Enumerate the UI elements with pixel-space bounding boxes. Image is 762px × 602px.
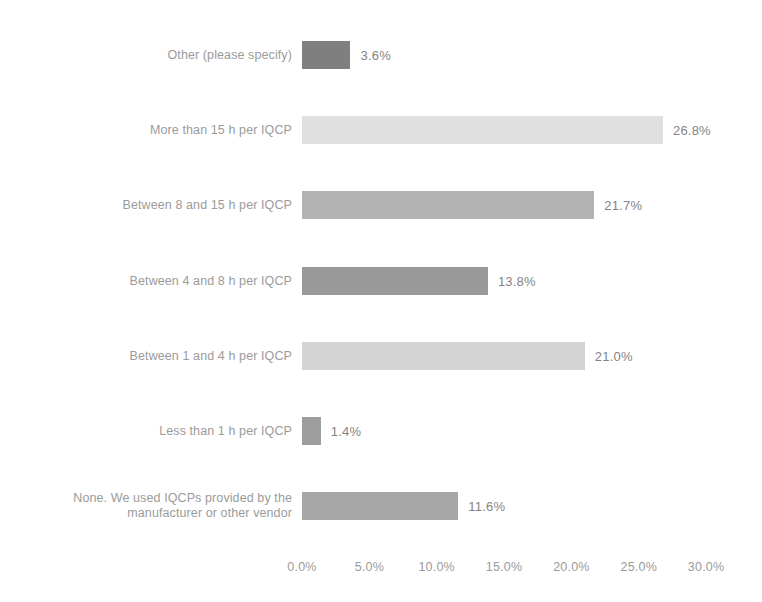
category-label: Less than 1 h per IQCP <box>12 424 292 439</box>
bar <box>302 342 585 370</box>
bar <box>302 267 488 295</box>
bar-value-label: 3.6% <box>360 48 390 63</box>
x-tick-label: 25.0% <box>621 560 657 574</box>
category-label: None. We used IQCPs provided by the manu… <box>12 491 292 521</box>
bar-row: Other (please specify)3.6% <box>0 41 762 69</box>
bar-row: None. We used IQCPs provided by the manu… <box>0 492 762 520</box>
category-label: More than 15 h per IQCP <box>12 123 292 138</box>
x-tick-label: 10.0% <box>418 560 454 574</box>
category-label: Between 4 and 8 h per IQCP <box>12 273 292 288</box>
plot-area: Other (please specify)3.6%More than 15 h… <box>0 0 762 602</box>
bar-value-label: 11.6% <box>468 499 505 514</box>
x-tick-label: 15.0% <box>486 560 522 574</box>
category-label: Between 1 and 4 h per IQCP <box>12 348 292 363</box>
bar-row: Between 8 and 15 h per IQCP21.7% <box>0 191 762 219</box>
x-axis: 0.0%5.0%10.0%15.0%20.0%25.0%30.0% <box>0 560 762 582</box>
bar-row: Less than 1 h per IQCP1.4% <box>0 417 762 445</box>
bar-row: Between 1 and 4 h per IQCP21.0% <box>0 342 762 370</box>
bar <box>302 191 594 219</box>
x-tick-label: 30.0% <box>688 560 724 574</box>
bar-value-label: 26.8% <box>673 123 711 138</box>
x-tick-label: 0.0% <box>287 560 316 574</box>
bar-row: Between 4 and 8 h per IQCP13.8% <box>0 267 762 295</box>
bar-row: More than 15 h per IQCP26.8% <box>0 116 762 144</box>
bar-value-label: 1.4% <box>331 424 361 439</box>
category-label: Between 8 and 15 h per IQCP <box>12 198 292 213</box>
category-label: Other (please specify) <box>12 48 292 63</box>
bar-value-label: 21.0% <box>595 348 633 363</box>
bar-chart: Other (please specify)3.6%More than 15 h… <box>0 0 762 602</box>
bar <box>302 417 321 445</box>
bar <box>302 492 458 520</box>
bar-value-label: 13.8% <box>498 273 536 288</box>
bar-value-label: 21.7% <box>604 198 642 213</box>
x-tick-label: 20.0% <box>553 560 589 574</box>
x-tick-label: 5.0% <box>355 560 384 574</box>
bar <box>302 41 350 69</box>
bar <box>302 116 663 144</box>
